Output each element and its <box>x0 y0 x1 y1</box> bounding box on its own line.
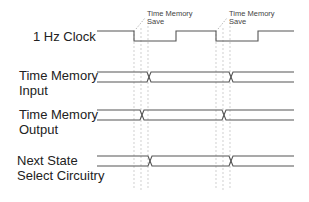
signal-label-clock: 1 Hz Clock <box>33 29 96 44</box>
signal-label-line: Next State <box>17 153 104 168</box>
signal-label-line: Input <box>19 83 98 98</box>
annotation-time-memory-save-2: Time Memory Save <box>229 10 275 26</box>
signal-label-line: 1 Hz Clock <box>33 29 96 44</box>
next-state-bus-waveform <box>97 156 294 166</box>
annotation-line: Save <box>147 18 193 26</box>
annotation-time-memory-save-1: Time Memory Save <box>147 10 193 26</box>
signal-label-time-memory-output: Time Memory Output <box>19 107 98 137</box>
signal-label-next-state: Next State Select Circuitry <box>17 153 104 183</box>
signal-label-line: Time Memory <box>19 68 98 83</box>
signal-label-line: Select Circuitry <box>17 168 104 183</box>
output-bus-waveform <box>97 110 294 120</box>
signal-label-line: Time Memory <box>19 107 98 122</box>
signal-label-line: Output <box>19 122 98 137</box>
annotation-line: Save <box>229 18 275 26</box>
input-bus-waveform <box>97 72 294 82</box>
signal-label-time-memory-input: Time Memory Input <box>19 68 98 98</box>
clock-waveform <box>97 31 294 41</box>
